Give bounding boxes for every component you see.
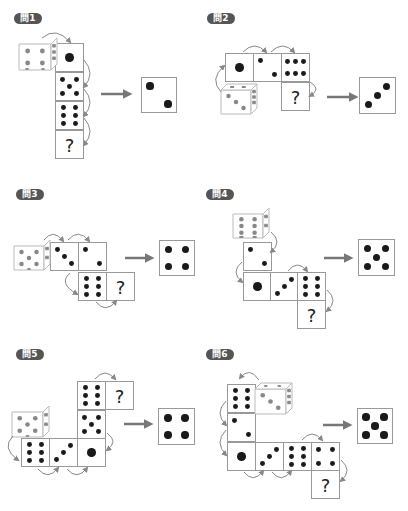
pip-dot bbox=[245, 404, 250, 409]
pip-dot bbox=[316, 447, 321, 452]
pip-dot bbox=[62, 254, 67, 259]
problem-label: 問1 bbox=[14, 13, 42, 24]
pip-dot bbox=[301, 462, 306, 467]
pip-dot bbox=[380, 413, 387, 420]
die-face bbox=[227, 442, 256, 471]
pip-dot bbox=[233, 396, 238, 401]
unknown-face: ? bbox=[106, 272, 135, 301]
pip-dot bbox=[362, 413, 369, 420]
question-mark: ? bbox=[312, 471, 339, 498]
pip-dot bbox=[303, 276, 308, 281]
die-face bbox=[270, 272, 299, 301]
pip-dot bbox=[253, 282, 262, 291]
curved-arrow-icon bbox=[310, 82, 316, 96]
answer-face bbox=[158, 408, 195, 445]
pip-dot bbox=[83, 401, 88, 406]
pip-dot bbox=[61, 121, 66, 126]
pip-dot bbox=[74, 77, 79, 82]
pip-dot bbox=[289, 454, 294, 459]
curved-arrow-icon bbox=[236, 262, 242, 282]
pip-dot bbox=[164, 414, 171, 421]
pip-dot bbox=[65, 53, 74, 62]
curved-arrow-icon bbox=[84, 60, 90, 87]
curved-arrow-icon bbox=[38, 468, 58, 475]
pip-dot bbox=[67, 84, 72, 89]
pip-dot bbox=[39, 442, 44, 447]
die-face bbox=[55, 101, 84, 130]
pip-dot bbox=[233, 404, 238, 409]
pip-dot bbox=[301, 71, 306, 76]
curved-arrow-icon bbox=[240, 372, 259, 380]
curved-arrow-icon bbox=[272, 471, 291, 478]
unknown-face: ? bbox=[281, 82, 310, 111]
pip-dot bbox=[285, 59, 290, 64]
pip-dot bbox=[245, 388, 250, 393]
curved-arrow-icon bbox=[44, 234, 63, 241]
pip-dot bbox=[95, 393, 100, 398]
die-face bbox=[77, 410, 106, 439]
pip-dot bbox=[164, 431, 171, 438]
pip-dot bbox=[55, 247, 60, 252]
pip-dot bbox=[233, 388, 238, 393]
pip-dot bbox=[362, 431, 369, 438]
curved-arrow-icon bbox=[84, 118, 90, 145]
die-face bbox=[311, 442, 340, 471]
pip-dot bbox=[289, 462, 294, 467]
curved-arrow-icon bbox=[67, 468, 87, 475]
curved-arrow-icon bbox=[341, 460, 347, 481]
problem-label: 問6 bbox=[206, 349, 234, 360]
curved-arrow-icon bbox=[271, 46, 294, 52]
pip-dot bbox=[373, 254, 380, 261]
pip-dot bbox=[285, 71, 290, 76]
die-face bbox=[21, 438, 50, 467]
question-mark: ? bbox=[106, 382, 133, 409]
pip-dot bbox=[27, 450, 32, 455]
pip-dot bbox=[274, 447, 279, 452]
pip-dot bbox=[97, 261, 102, 266]
curved-arrow-icon bbox=[220, 401, 226, 425]
pip-dot bbox=[262, 261, 267, 266]
pip-dot bbox=[61, 113, 66, 118]
pip-dot bbox=[301, 59, 306, 64]
die-face bbox=[227, 384, 256, 413]
die-face bbox=[243, 272, 272, 301]
pip-dot bbox=[316, 461, 321, 466]
pip-dot bbox=[303, 284, 308, 289]
pip-dot bbox=[82, 429, 87, 434]
pip-dot bbox=[315, 276, 320, 281]
curved-arrow-icon bbox=[302, 434, 322, 440]
pip-dot bbox=[289, 446, 294, 451]
question-mark: ? bbox=[107, 273, 134, 300]
pip-dot bbox=[371, 422, 378, 429]
pip-dot bbox=[68, 443, 73, 448]
pip-dot bbox=[82, 415, 87, 420]
pip-dot bbox=[289, 277, 294, 282]
pip-dot bbox=[83, 247, 88, 252]
pip-dot bbox=[260, 461, 265, 466]
curved-arrow-icon bbox=[107, 433, 113, 450]
die-face bbox=[78, 272, 107, 301]
die-face bbox=[225, 53, 254, 82]
die-face bbox=[77, 381, 106, 410]
curved-arrow-icon bbox=[96, 301, 116, 308]
pip-dot bbox=[83, 393, 88, 398]
die-3d-icon bbox=[19, 38, 57, 70]
pip-dot bbox=[248, 247, 253, 252]
pip-dot bbox=[364, 263, 371, 270]
pip-dot bbox=[87, 448, 96, 457]
pip-dot bbox=[237, 452, 246, 461]
pip-dot bbox=[60, 91, 65, 96]
question-mark: ? bbox=[282, 83, 309, 110]
pip-dot bbox=[293, 59, 298, 64]
pip-dot bbox=[96, 415, 101, 420]
unknown-face: ? bbox=[55, 130, 84, 159]
pip-dot bbox=[182, 263, 189, 270]
pip-dot bbox=[61, 105, 66, 110]
pip-dot bbox=[60, 77, 65, 82]
problem-label: 問4 bbox=[206, 189, 234, 200]
pip-dot bbox=[96, 292, 101, 297]
pip-dot bbox=[73, 113, 78, 118]
unknown-face: ? bbox=[311, 470, 340, 499]
answer-face bbox=[358, 239, 395, 276]
curved-arrow-icon bbox=[8, 436, 18, 460]
